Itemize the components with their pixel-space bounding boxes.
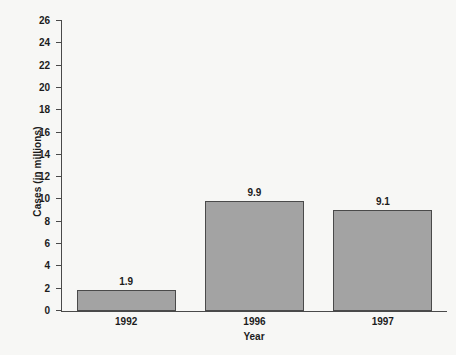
x-axis-title: Year bbox=[61, 331, 447, 342]
x-tick-label: 1996 bbox=[190, 316, 318, 327]
bar[interactable] bbox=[77, 290, 176, 311]
y-tick-label: 4 bbox=[0, 258, 50, 273]
y-axis-line bbox=[61, 20, 62, 312]
bar[interactable] bbox=[333, 210, 432, 312]
y-tick-label: 2 bbox=[0, 281, 50, 296]
bar-value-label: 9.9 bbox=[205, 187, 304, 198]
y-tick-label: 22 bbox=[0, 58, 50, 73]
bar[interactable] bbox=[205, 201, 304, 311]
y-tick-label: 8 bbox=[0, 214, 50, 229]
bar-value-label: 1.9 bbox=[77, 276, 176, 287]
y-tick-label: 6 bbox=[0, 236, 50, 251]
y-tick-label: 14 bbox=[0, 147, 50, 162]
y-tick-label: 26 bbox=[0, 13, 50, 28]
y-tick-label: 0 bbox=[0, 303, 50, 318]
y-tick-label: 20 bbox=[0, 80, 50, 95]
y-tick-label: 10 bbox=[0, 191, 50, 206]
y-tick-label: 24 bbox=[0, 35, 50, 50]
x-axis-line bbox=[61, 311, 447, 312]
bar-chart: Cases (in millions) 02468101214161820222… bbox=[0, 0, 456, 355]
bar-value-label: 9.1 bbox=[333, 196, 432, 207]
y-tick-label: 16 bbox=[0, 125, 50, 140]
y-tick-label: 12 bbox=[0, 169, 50, 184]
x-tick-label: 1992 bbox=[62, 316, 190, 327]
y-tick-label: 18 bbox=[0, 102, 50, 117]
x-tick-label: 1997 bbox=[319, 316, 447, 327]
